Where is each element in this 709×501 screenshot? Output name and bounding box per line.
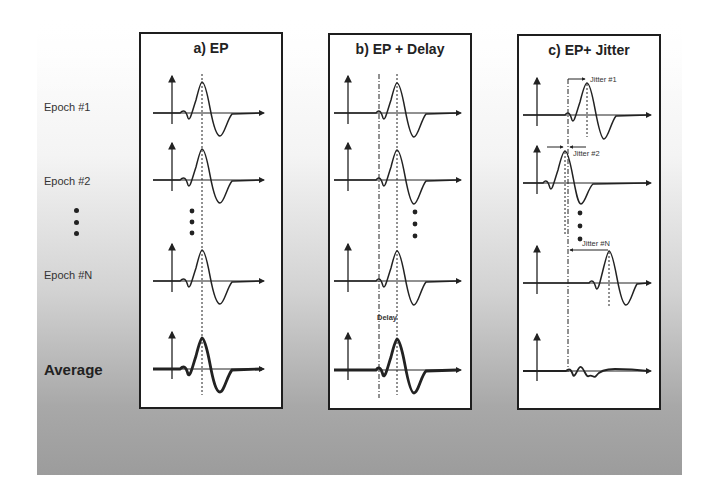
panel-c-epoch-1 bbox=[523, 78, 651, 139]
panel-a-epoch-1 bbox=[153, 76, 264, 136]
panel-a-average bbox=[153, 332, 264, 392]
jitter-n-label: Jitter #N bbox=[582, 239, 610, 248]
panel-a-epoch-n bbox=[153, 244, 264, 304]
jitter-1-label: Jitter #1 bbox=[590, 75, 617, 84]
panel-c-average bbox=[523, 334, 651, 381]
panel-a-waveforms bbox=[153, 74, 264, 395]
jitter-2-label: Jitter #2 bbox=[573, 149, 600, 158]
panel-c-epoch-2 bbox=[523, 146, 651, 235]
panel-c-epoch-n bbox=[523, 246, 651, 307]
delay-label: Delay bbox=[377, 313, 398, 322]
panel-a-epoch-2 bbox=[153, 143, 264, 203]
waveform-drawing: Delay bbox=[0, 0, 709, 501]
panel-b-waveforms bbox=[334, 74, 461, 398]
panel-c-waveforms bbox=[523, 78, 651, 381]
